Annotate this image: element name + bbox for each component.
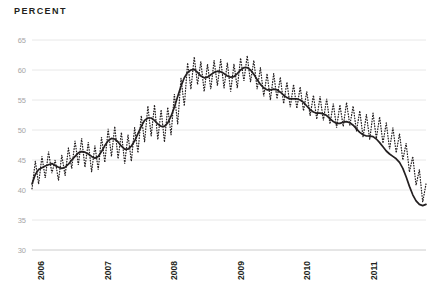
y-tick-label: 50 — [8, 126, 26, 135]
y-tick-label: 65 — [8, 36, 26, 45]
x-tick-label: 2009 — [236, 261, 246, 280]
x-tick-label: 2011 — [369, 262, 379, 280]
y-tick-label: 40 — [8, 186, 26, 195]
y-tick-label: 30 — [8, 246, 26, 255]
raw-monthly-line — [32, 56, 426, 202]
x-tick-label: 2007 — [103, 261, 113, 280]
chart-figure: PERCENT 3035404550556065 200620072008200… — [0, 0, 443, 301]
smoothed-trend-line — [32, 68, 426, 206]
x-tick-label: 2008 — [169, 261, 179, 280]
x-tick-label: 2006 — [36, 261, 46, 280]
gridlines — [32, 40, 426, 250]
x-tick-label: 2010 — [302, 261, 312, 280]
y-tick-label: 35 — [8, 216, 26, 225]
plot-area — [0, 0, 443, 301]
series-smoothed-trend — [32, 68, 426, 206]
y-tick-label: 60 — [8, 66, 26, 75]
y-tick-label: 45 — [8, 156, 26, 165]
y-tick-label: 55 — [8, 96, 26, 105]
series-raw-monthly — [32, 56, 426, 202]
